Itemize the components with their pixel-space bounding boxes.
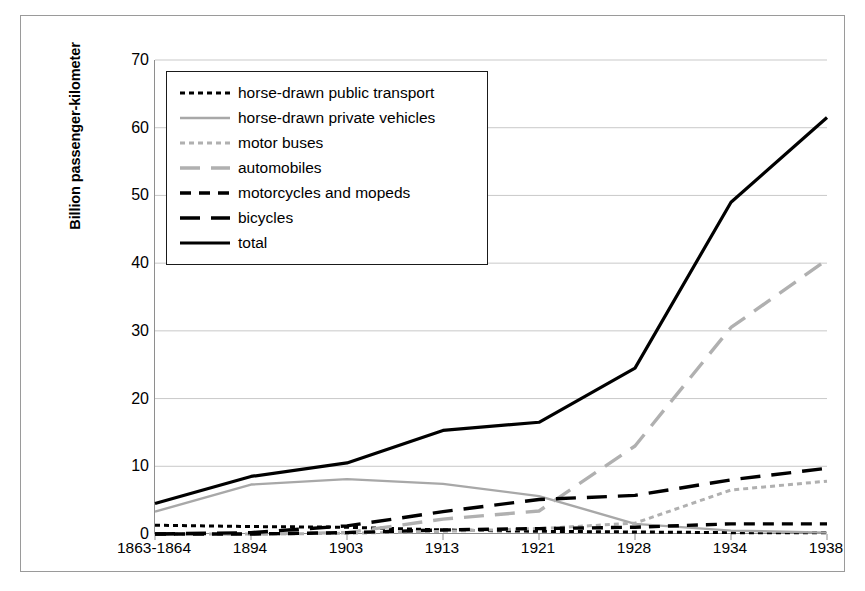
y-tick-label: 10 xyxy=(105,458,149,474)
x-tick-label: 1921 xyxy=(521,540,555,556)
legend-swatch-icon xyxy=(179,86,231,100)
chart-legend: horse-drawn public transporthorse-drawn … xyxy=(166,71,488,265)
legend-label: total xyxy=(238,235,267,251)
y-axis-ticks: 706050403020100 xyxy=(99,60,149,534)
legend-item[interactable]: bicycles xyxy=(179,205,477,230)
legend-swatch-icon xyxy=(179,186,231,200)
y-tick-label: 50 xyxy=(105,187,149,203)
y-tick-label: 60 xyxy=(105,120,149,136)
y-axis-title: Billion passenger-kilometer xyxy=(67,6,83,266)
legend-item[interactable]: automobiles xyxy=(179,155,477,180)
y-tick-label: 40 xyxy=(105,255,149,271)
legend-label: automobiles xyxy=(238,160,322,176)
legend-item[interactable]: total xyxy=(179,230,477,255)
x-tick-label: 1928 xyxy=(617,540,651,556)
legend-label: horse-drawn public transport xyxy=(238,85,434,101)
legend-item[interactable]: motor buses xyxy=(179,130,477,155)
chart-frame: Billion passenger-kilometer 706050403020… xyxy=(20,15,845,572)
x-axis-ticks: 1863-18641894190319131921192819341938 xyxy=(154,540,826,570)
legend-item[interactable]: horse-drawn private vehicles xyxy=(179,105,477,130)
x-tick-label: 1934 xyxy=(713,540,747,556)
legend-item[interactable]: motorcycles and mopeds xyxy=(179,180,477,205)
x-tick-label: 1863-1864 xyxy=(117,540,191,556)
legend-label: bicycles xyxy=(238,210,293,226)
legend-swatch-icon xyxy=(179,136,231,150)
x-tick-label: 1903 xyxy=(329,540,363,556)
x-tick-label: 1938 xyxy=(809,540,843,556)
chart-root: Billion passenger-kilometer 706050403020… xyxy=(0,0,865,591)
legend-item[interactable]: horse-drawn public transport xyxy=(179,80,477,105)
x-tick-label: 1913 xyxy=(425,540,459,556)
legend-label: horse-drawn private vehicles xyxy=(238,110,435,126)
legend-label: motorcycles and mopeds xyxy=(238,185,410,201)
y-tick-label: 70 xyxy=(105,52,149,68)
legend-swatch-icon xyxy=(179,211,231,225)
y-tick-label: 30 xyxy=(105,323,149,339)
y-tick-label: 20 xyxy=(105,391,149,407)
legend-swatch-icon xyxy=(179,161,231,175)
x-tick-label: 1894 xyxy=(233,540,267,556)
legend-label: motor buses xyxy=(238,135,323,151)
legend-swatch-icon xyxy=(179,111,231,125)
legend-swatch-icon xyxy=(179,236,231,250)
